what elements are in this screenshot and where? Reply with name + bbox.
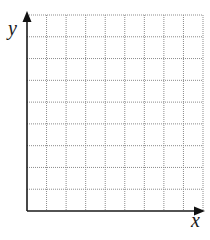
grid-lines (27, 15, 203, 211)
y-axis-label: y (8, 18, 17, 38)
axes (23, 11, 206, 216)
y-axis-arrow-icon (23, 11, 32, 22)
coordinate-grid (0, 0, 210, 240)
x-axis-label: x (191, 210, 200, 230)
